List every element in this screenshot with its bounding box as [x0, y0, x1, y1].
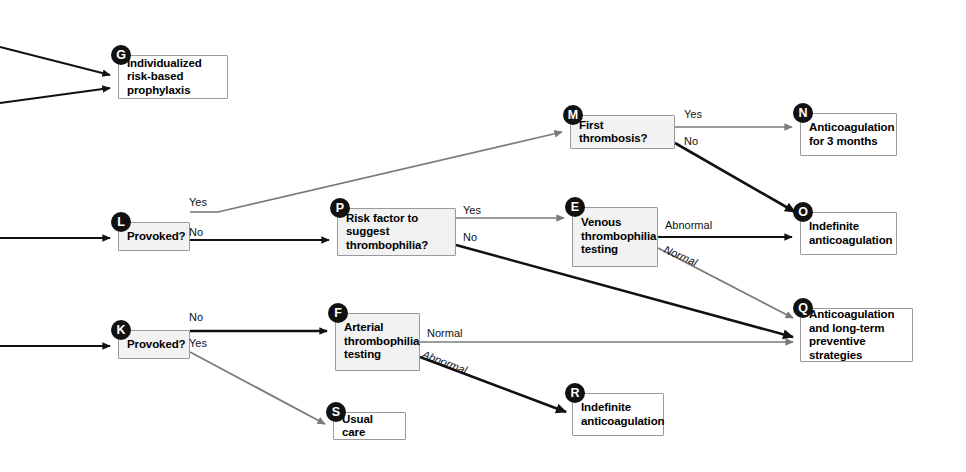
edge-k-yes-s: [190, 352, 325, 424]
edge-label-l-no: No: [189, 226, 203, 238]
edge-label-p-yes: Yes: [463, 204, 481, 216]
node-g[interactable]: G Individualized risk-based prophylaxis: [118, 55, 228, 99]
node-badge-e: E: [565, 197, 585, 217]
node-q[interactable]: Q Anticoagulation and long-term preventi…: [800, 308, 913, 362]
node-p-label: Risk factor to suggest thrombophilia?: [338, 209, 455, 255]
edge-label-f-abnormal: Abnormal: [421, 348, 469, 376]
node-badge-r: R: [565, 383, 585, 403]
node-l[interactable]: L Provoked?: [118, 222, 190, 251]
node-e-label: Venous thrombophilia testing: [573, 208, 657, 266]
node-n[interactable]: N Anticoagulation for 3 months: [800, 113, 897, 156]
node-r[interactable]: R Indefinite anticoagulation: [572, 393, 664, 436]
node-r-label: Indefinite anticoagulation: [573, 394, 663, 435]
node-badge-f: F: [328, 303, 348, 323]
node-badge-m: M: [563, 105, 583, 125]
edge-label-e-normal: Normal: [662, 243, 699, 268]
node-badge-l: L: [111, 212, 131, 232]
edge-label-k-no: No: [189, 311, 203, 323]
node-o-label: Indefinite anticoagulation: [801, 213, 896, 254]
flowchart-canvas: G Individualized risk-based prophylaxis …: [0, 0, 966, 472]
node-m-label: First thrombosis?: [571, 116, 674, 148]
node-k[interactable]: K Provoked?: [118, 330, 190, 359]
edge-label-f-normal: Normal: [427, 327, 462, 339]
edge-label-m-no: No: [684, 135, 698, 147]
node-g-label: Individualized risk-based prophylaxis: [119, 56, 227, 98]
edge-in-g-lower: [0, 88, 110, 103]
edge-label-k-yes: Yes: [189, 337, 207, 349]
node-e[interactable]: E Venous thrombophilia testing: [572, 207, 658, 267]
node-q-label: Anticoagulation and long-term preventive…: [801, 309, 912, 361]
edge-label-p-no: No: [463, 231, 477, 243]
edge-m-no-o: [675, 143, 795, 212]
edge-label-m-yes: Yes: [684, 108, 702, 120]
node-badge-o: O: [793, 202, 813, 222]
node-badge-s: S: [326, 402, 346, 422]
node-badge-g: G: [111, 45, 131, 65]
node-badge-p: P: [330, 198, 350, 218]
node-s[interactable]: S Usual care: [333, 412, 406, 440]
node-badge-q: Q: [793, 298, 813, 318]
edge-label-e-abnormal: Abnormal: [665, 219, 712, 231]
node-f-label: Arterial thrombophilia testing: [336, 314, 419, 370]
edge-label-l-yes: Yes: [189, 196, 207, 208]
node-o[interactable]: O Indefinite anticoagulation: [800, 212, 897, 255]
node-badge-n: N: [793, 103, 813, 123]
node-m[interactable]: M First thrombosis?: [570, 115, 675, 149]
node-p[interactable]: P Risk factor to suggest thrombophilia?: [337, 208, 456, 256]
node-n-label: Anticoagulation for 3 months: [801, 114, 896, 155]
edge-in-g-upper: [0, 47, 110, 75]
edge-l-yes-m: [190, 132, 562, 212]
node-f[interactable]: F Arterial thrombophilia testing: [335, 313, 420, 371]
node-badge-k: K: [111, 320, 131, 340]
